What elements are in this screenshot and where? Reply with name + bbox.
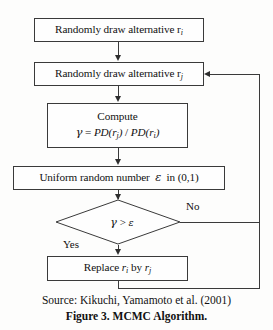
node-draw-i-text: Randomly draw alternative r xyxy=(55,23,181,35)
formula-gamma: γ xyxy=(76,126,83,139)
node-replace-text-mid: by xyxy=(131,261,142,273)
decision-operator: > xyxy=(120,216,126,228)
caption-figure-title: Figure 3. MCMC Algorithm. xyxy=(0,310,273,322)
node-compute-formula: γ = PD(rj) / PD(ri) xyxy=(76,126,160,140)
node-draw-j-text: Randomly draw alternative r xyxy=(55,67,181,79)
node-uniform-random-number: Uniform random number ε in (0,1) xyxy=(13,166,225,190)
node-draw-i-subscript: i xyxy=(181,28,183,37)
node-draw-j-subscript: j xyxy=(181,72,183,81)
formula-divide: / xyxy=(125,126,128,138)
connector-feedback-top xyxy=(210,74,260,75)
formula-numerator-fn: PD xyxy=(94,126,109,138)
branch-label-no: No xyxy=(186,200,199,212)
node-replace-text-before: Replace xyxy=(84,261,119,273)
arrowhead-into-compute xyxy=(115,96,121,102)
decision-right-symbol: ε xyxy=(129,217,134,228)
arrowhead-into-uniform xyxy=(115,159,121,165)
formula-denominator-fn: PD xyxy=(131,126,146,138)
node-uniform-text-after: in (0,1) xyxy=(166,171,198,183)
flowchart-canvas: Randomly draw alternative ri Randomly dr… xyxy=(0,0,273,330)
connector-no-branch xyxy=(180,222,260,223)
node-uniform-text-before: Uniform random number xyxy=(39,171,149,183)
arrowhead-into-replace xyxy=(115,249,121,255)
branch-label-yes: Yes xyxy=(63,238,79,250)
node-replace-var2-sub: j xyxy=(149,266,151,275)
connector-draw-i-to-draw-j xyxy=(118,42,119,56)
node-compute-label: Compute xyxy=(97,110,137,123)
connector-feedback-bottom xyxy=(118,288,260,289)
node-compute-gamma: Compute γ = PD(rj) / PD(ri) xyxy=(47,103,188,148)
caption-source: Source: Kikuchi, Yamamoto et al. (2001) xyxy=(0,294,273,306)
arrowhead-into-draw-j-feedback xyxy=(204,71,210,77)
node-randomly-draw-alternative-rj: Randomly draw alternative rj xyxy=(34,62,204,86)
node-randomly-draw-alternative-ri: Randomly draw alternative ri xyxy=(34,18,204,42)
node-uniform-symbol: ε xyxy=(155,171,161,184)
node-replace-ri-by-rj: Replace ri by rj xyxy=(47,256,188,281)
node-replace-var1-sub: i xyxy=(126,266,128,275)
formula-equals: = xyxy=(85,126,91,138)
connector-feedback-right-rail xyxy=(259,74,260,289)
decision-left-symbol: γ xyxy=(110,216,117,229)
arrowhead-into-draw-j xyxy=(115,55,121,61)
